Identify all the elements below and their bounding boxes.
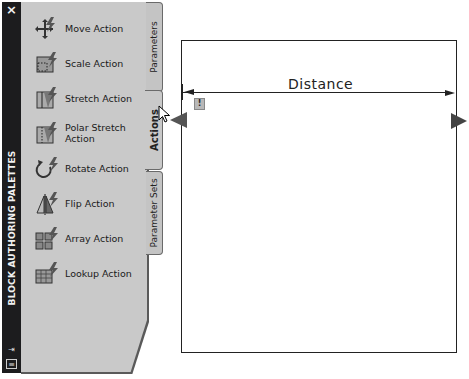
- palette-item-lookup-action[interactable]: Lookup Action: [33, 260, 143, 286]
- flip-action-icon: [33, 190, 61, 216]
- palette-item-polar-stretch-action[interactable]: Polar Stretch Action: [33, 120, 143, 146]
- palette-item-scale-action[interactable]: Scale Action: [33, 50, 143, 76]
- palette-item-stretch-action[interactable]: Stretch Action: [33, 85, 143, 111]
- close-icon[interactable]: ×: [6, 3, 17, 17]
- linear-grip-left-icon[interactable]: [170, 112, 187, 128]
- tab-actions[interactable]: Actions: [145, 90, 163, 170]
- polar-stretch-action-icon: [33, 120, 61, 146]
- palette-title: BLOCK AUTHORING PALETTES: [3, 123, 20, 333]
- palette-item-move-action[interactable]: Move Action: [33, 15, 143, 41]
- dimension-arrow-right-icon: [445, 90, 455, 96]
- palette-item-rotate-action[interactable]: Rotate Action: [33, 155, 143, 181]
- rotate-action-icon: [33, 155, 61, 181]
- palette-item-array-action[interactable]: Array Action: [33, 225, 143, 251]
- palette-titlebar[interactable]: × BLOCK AUTHORING PALETTES ⇥ ≡: [2, 2, 21, 373]
- tab-parameter-sets[interactable]: Parameter Sets: [146, 171, 163, 255]
- tab-parameters[interactable]: Parameters: [146, 2, 163, 92]
- mouse-cursor-icon: [158, 105, 170, 127]
- linear-grip-right-icon[interactable]: [451, 113, 467, 129]
- distance-dimension-line: [182, 92, 450, 93]
- alert-icon[interactable]: !: [194, 98, 205, 110]
- array-action-icon: [33, 225, 61, 251]
- autohide-icon[interactable]: ⇥: [6, 345, 17, 355]
- dimension-arrow-left-icon: [184, 89, 194, 95]
- stretch-action-icon: [33, 85, 61, 111]
- properties-menu-icon[interactable]: ≡: [6, 359, 17, 369]
- move-action-icon: [33, 15, 61, 41]
- lookup-action-icon: [33, 260, 61, 286]
- palette-item-flip-action[interactable]: Flip Action: [33, 190, 143, 216]
- distance-parameter-label[interactable]: Distance: [288, 76, 353, 92]
- scale-action-icon: [33, 50, 61, 76]
